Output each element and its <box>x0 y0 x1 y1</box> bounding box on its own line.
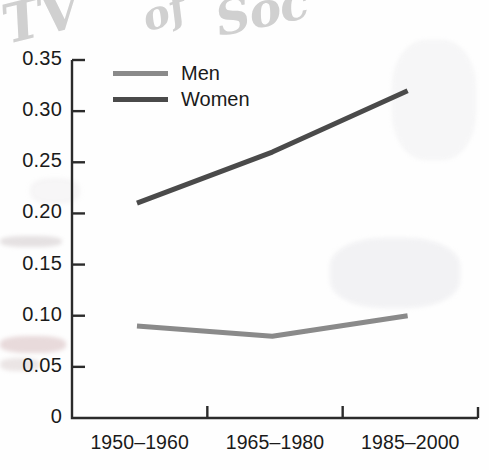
legend-item-women: Women <box>113 86 250 112</box>
y-axis-tick-label: 0.10 <box>22 303 62 326</box>
y-axis-tick-label: 0.15 <box>22 252 62 275</box>
chart-legend: MenWomen <box>113 60 250 112</box>
chart-axes <box>72 60 478 418</box>
legend-label-men: Men <box>181 62 220 85</box>
series-line-men <box>137 316 408 336</box>
legend-label-women: Women <box>181 88 250 111</box>
legend-item-men: Men <box>113 60 250 86</box>
y-axis-tick-label: 0.30 <box>22 98 62 121</box>
x-axis-tick-label: 1950–1960 <box>72 431 207 454</box>
x-axis-tick-label: 1985–2000 <box>343 431 478 454</box>
chart-page: TV of Soc 00.050.100.150.200.250.300.35 … <box>0 0 489 470</box>
line-chart: 00.050.100.150.200.250.300.35 1950–19601… <box>0 0 489 470</box>
y-axis-tick-label: 0.35 <box>22 47 62 70</box>
y-axis-tick-label: 0.05 <box>22 354 62 377</box>
chart-series <box>137 91 408 336</box>
y-axis-tick-label: 0.20 <box>22 200 62 223</box>
y-axis-tick-label: 0 <box>51 405 62 428</box>
legend-swatch-men <box>113 71 168 76</box>
legend-swatch-women <box>113 97 168 102</box>
y-axis-tick-labels: 00.050.100.150.200.250.300.35 <box>0 0 62 470</box>
x-axis-tick-label: 1965–1980 <box>207 431 342 454</box>
y-axis-tick-label: 0.25 <box>22 149 62 172</box>
